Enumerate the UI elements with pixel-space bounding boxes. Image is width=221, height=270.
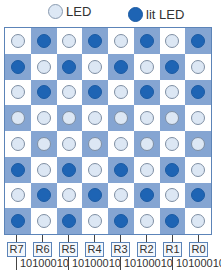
column-labels: R7R6R5R4R3R2R1R0 bbox=[4, 235, 212, 257]
matrix-cell bbox=[82, 183, 108, 209]
lit-led-icon bbox=[62, 163, 76, 177]
matrix-cell bbox=[5, 105, 31, 131]
register-label: R0 bbox=[189, 242, 208, 257]
unlit-led-icon bbox=[11, 111, 25, 125]
matrix-cell bbox=[82, 28, 108, 54]
matrix-cell bbox=[134, 208, 160, 234]
unlit-led-icon bbox=[191, 137, 205, 151]
unlit-led-icon bbox=[11, 188, 25, 202]
lit-led-icon bbox=[88, 85, 102, 99]
lit-led-icon bbox=[62, 60, 76, 74]
lit-led-icon bbox=[88, 188, 102, 202]
connector-line bbox=[42, 235, 43, 242]
unlit-led-icon bbox=[37, 214, 51, 228]
matrix-cell bbox=[57, 131, 83, 157]
matrix-cell bbox=[185, 54, 211, 80]
unlit-led-icon bbox=[191, 60, 205, 74]
register-label: R3 bbox=[111, 242, 130, 257]
unlit-led-icon bbox=[191, 111, 205, 125]
unlit-led-icon bbox=[191, 163, 205, 177]
unlit-led-icon bbox=[88, 111, 102, 125]
matrix-cell bbox=[82, 54, 108, 80]
led-matrix bbox=[4, 27, 212, 235]
unlit-led-icon bbox=[37, 163, 51, 177]
separator-line bbox=[16, 257, 17, 270]
legend-label-lit-led: lit LED bbox=[146, 7, 184, 22]
column-label: R3 bbox=[108, 235, 134, 257]
matrix-cell bbox=[108, 131, 134, 157]
matrix-cell bbox=[134, 157, 160, 183]
register-label: R6 bbox=[33, 242, 52, 257]
unlit-led-icon bbox=[37, 60, 51, 74]
matrix-cell bbox=[57, 54, 83, 80]
matrix-cell bbox=[82, 80, 108, 106]
matrix-cell bbox=[185, 183, 211, 209]
matrix-cell bbox=[160, 208, 186, 234]
matrix-cell bbox=[108, 208, 134, 234]
bit-string-group: 10100010 bbox=[4, 257, 56, 270]
matrix-cell bbox=[160, 105, 186, 131]
matrix-cell bbox=[5, 80, 31, 106]
unlit-led-icon bbox=[37, 137, 51, 151]
matrix-cell bbox=[185, 80, 211, 106]
matrix-cell bbox=[5, 157, 31, 183]
column-label: R6 bbox=[30, 235, 56, 257]
register-label: R1 bbox=[163, 242, 182, 257]
matrix-cell bbox=[185, 157, 211, 183]
column-label: R5 bbox=[56, 235, 82, 257]
lit-led-icon bbox=[88, 34, 102, 48]
unlit-led-icon bbox=[62, 34, 76, 48]
connector-line bbox=[68, 235, 69, 242]
matrix-cell bbox=[185, 28, 211, 54]
matrix-cell bbox=[108, 105, 134, 131]
lit-led-icon bbox=[114, 163, 128, 177]
lit-led-icon bbox=[37, 34, 51, 48]
matrix-cell bbox=[134, 54, 160, 80]
unlit-led-icon bbox=[140, 60, 154, 74]
column-label: R0 bbox=[186, 235, 212, 257]
lit-led-icon bbox=[140, 188, 154, 202]
matrix-cell bbox=[185, 131, 211, 157]
unlit-led-icon bbox=[140, 214, 154, 228]
unlit-led-icon bbox=[62, 85, 76, 99]
unlit-led-icon bbox=[11, 137, 25, 151]
unlit-led-icon bbox=[140, 137, 154, 151]
matrix-cell bbox=[5, 183, 31, 209]
bit-string-group: 10100010 bbox=[160, 257, 212, 270]
unlit-led-icon bbox=[114, 137, 128, 151]
matrix-cell bbox=[82, 208, 108, 234]
lit-led-icon bbox=[165, 214, 179, 228]
column-label: R7 bbox=[4, 235, 30, 257]
matrix-cell bbox=[31, 80, 57, 106]
connector-line bbox=[16, 235, 17, 242]
connector-line bbox=[198, 235, 199, 242]
lit-led-icon bbox=[11, 60, 25, 74]
matrix-cell bbox=[160, 183, 186, 209]
unlit-led-icon bbox=[114, 85, 128, 99]
lit-led-icon bbox=[191, 34, 205, 48]
matrix-cell bbox=[57, 80, 83, 106]
matrix-cell bbox=[160, 157, 186, 183]
matrix-cell bbox=[134, 28, 160, 54]
lit-led-icon bbox=[140, 85, 154, 99]
connector-line bbox=[94, 235, 95, 242]
matrix-cell bbox=[160, 131, 186, 157]
matrix-cell bbox=[57, 105, 83, 131]
matrix-cell bbox=[82, 157, 108, 183]
unlit-led-icon bbox=[140, 111, 154, 125]
matrix-cell bbox=[31, 157, 57, 183]
separator-line bbox=[172, 257, 173, 270]
matrix-cell bbox=[31, 28, 57, 54]
matrix-cell bbox=[160, 54, 186, 80]
unlit-led-icon bbox=[62, 137, 76, 151]
lit-led-icon bbox=[114, 214, 128, 228]
unlit-led-icon bbox=[88, 163, 102, 177]
lit-led-icon bbox=[191, 188, 205, 202]
matrix-cell bbox=[31, 105, 57, 131]
unlit-led-icon bbox=[11, 85, 25, 99]
matrix-cell bbox=[5, 28, 31, 54]
lit-led-icon bbox=[37, 85, 51, 99]
matrix-cell bbox=[57, 208, 83, 234]
column-label: R1 bbox=[160, 235, 186, 257]
lit-led-icon bbox=[165, 60, 179, 74]
